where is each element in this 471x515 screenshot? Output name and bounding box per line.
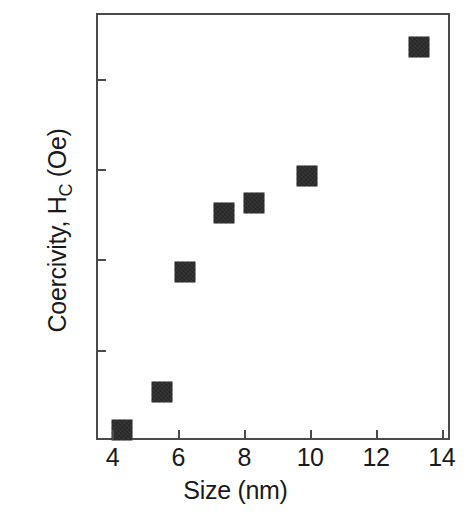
- data-point-marker: [214, 202, 235, 223]
- y-axis-title-unit: (Oe): [43, 128, 71, 183]
- x-axis-tick-label: 12: [363, 445, 390, 470]
- y-axis-tick: [96, 79, 106, 81]
- x-axis-tick-label: 6: [172, 445, 185, 470]
- x-axis-tick: [244, 430, 246, 440]
- x-axis-tick-label: 4: [106, 445, 119, 470]
- y-axis-tick: [96, 259, 106, 261]
- y-axis-title-subscript: C: [56, 184, 76, 197]
- coercivity-vs-size-figure: 100200300400 468101214 Size (nm) Coerciv…: [0, 0, 471, 515]
- data-point-marker: [112, 420, 133, 441]
- data-point-marker: [296, 166, 317, 187]
- y-axis-title-main: Coercivity, H: [43, 197, 71, 333]
- x-axis-title: Size (nm): [0, 477, 471, 505]
- x-axis-tick-label: 14: [428, 445, 455, 470]
- data-point-marker: [244, 192, 265, 213]
- y-axis-title: Coercivity, HC (Oe): [44, 20, 77, 440]
- plot-area: [96, 13, 450, 440]
- x-axis-tick: [442, 430, 444, 440]
- x-axis-tick: [112, 430, 114, 440]
- data-point-marker: [174, 262, 195, 283]
- x-axis-tick: [376, 430, 378, 440]
- x-axis-tick: [310, 430, 312, 440]
- y-axis-tick: [96, 350, 106, 352]
- x-axis-tick: [178, 430, 180, 440]
- data-point-marker: [408, 37, 429, 58]
- x-axis-tick-label: 10: [297, 445, 324, 470]
- data-point-marker: [151, 382, 172, 403]
- y-axis-tick: [96, 169, 106, 171]
- x-axis-tick-label: 8: [237, 445, 250, 470]
